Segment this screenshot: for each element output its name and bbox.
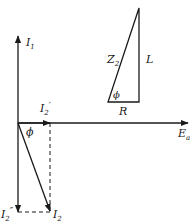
z2-label: Z2 (106, 53, 120, 68)
phasor-diagram: I1 I2′ ϕ Ea I2″ I2 Z2 L ϕ R (0, 0, 192, 221)
i2-phasor (18, 123, 50, 211)
i2-prime-label: I2′ (39, 101, 51, 117)
ea-label: Ea (177, 127, 190, 142)
l-label: L (145, 53, 153, 66)
i2-double-prime-label: I2″ (0, 206, 14, 221)
phi-label: ϕ (26, 126, 34, 139)
i1-label: I1 (25, 36, 35, 51)
i2-label: I2 (52, 208, 62, 221)
r-label: R (118, 105, 127, 118)
triangle-phi-label: ϕ (113, 89, 120, 100)
